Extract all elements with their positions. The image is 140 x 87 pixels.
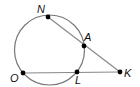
segments: [23, 17, 120, 73]
point-O: [21, 71, 26, 76]
circle: [15, 15, 85, 85]
geometry-diagram: NAOLK: [0, 0, 140, 87]
label-K: K: [124, 67, 132, 79]
label-O: O: [10, 72, 19, 84]
label-N: N: [37, 3, 45, 15]
points: [21, 15, 123, 76]
point-labels: NAOLK: [10, 3, 132, 86]
label-A: A: [83, 31, 91, 43]
point-A: [82, 44, 87, 49]
point-K: [118, 70, 123, 75]
label-L: L: [75, 74, 81, 86]
point-N: [46, 15, 51, 20]
segment-OK: [23, 72, 120, 73]
